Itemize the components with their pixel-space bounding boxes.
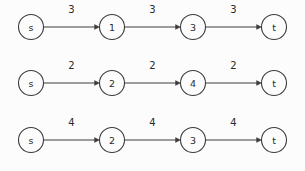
node-row3-0[interactable]: s	[19, 128, 44, 153]
node-row3-3[interactable]: t	[262, 128, 287, 153]
edge-row2-1[interactable]: 2	[125, 60, 181, 86]
node-row1-1[interactable]: 1	[100, 15, 125, 40]
edge-weight-label: 4	[68, 117, 74, 128]
node-label: s	[29, 78, 34, 89]
arrowhead-icon	[176, 138, 181, 143]
arrowhead-icon	[95, 81, 100, 86]
node-label: t	[272, 22, 276, 33]
edge-row3-2[interactable]: 4	[206, 117, 262, 143]
graph-row-3: 4 4 4 s 2 3	[19, 117, 287, 153]
node-row3-1[interactable]: 2	[100, 128, 125, 153]
arrowhead-icon	[257, 25, 262, 30]
edge-row3-0[interactable]: 4	[44, 117, 100, 143]
arrowhead-icon	[257, 138, 262, 143]
arrowhead-icon	[176, 81, 181, 86]
node-row1-2[interactable]: 3	[181, 15, 206, 40]
graph-row-1: 3 3 3 s 1 3	[19, 4, 287, 40]
node-row1-0[interactable]: s	[19, 15, 44, 40]
arrowhead-icon	[95, 138, 100, 143]
arrowhead-icon	[95, 25, 100, 30]
node-row2-3[interactable]: t	[262, 71, 287, 96]
graph-svg: 3 3 3 s 1 3	[0, 0, 305, 171]
arrowhead-icon	[176, 25, 181, 30]
edge-weight-label: 3	[149, 4, 155, 15]
edge-weight-label: 3	[68, 4, 74, 15]
arrowhead-icon	[257, 81, 262, 86]
node-row3-2[interactable]: 3	[181, 128, 206, 153]
node-label: 2	[109, 78, 115, 89]
edge-weight-label: 4	[230, 117, 236, 128]
node-row2-2[interactable]: 4	[181, 71, 206, 96]
node-label: 3	[190, 135, 196, 146]
graph-diagram-canvas: 3 3 3 s 1 3	[0, 0, 305, 171]
edge-weight-label: 2	[230, 60, 236, 71]
edge-row1-0[interactable]: 3	[44, 4, 100, 30]
node-label: 1	[109, 22, 115, 33]
node-label: t	[272, 135, 276, 146]
graph-row-2: 2 2 2 s 2 4	[19, 60, 287, 96]
node-label: s	[29, 135, 34, 146]
node-label: 3	[190, 22, 196, 33]
node-row2-0[interactable]: s	[19, 71, 44, 96]
node-row1-3[interactable]: t	[262, 15, 287, 40]
node-label: 4	[190, 78, 196, 89]
edge-weight-label: 2	[68, 60, 74, 71]
edge-weight-label: 3	[230, 4, 236, 15]
node-label: s	[29, 22, 34, 33]
edge-row1-1[interactable]: 3	[125, 4, 181, 30]
edge-row2-0[interactable]: 2	[44, 60, 100, 86]
edge-weight-label: 2	[149, 60, 155, 71]
node-row2-1[interactable]: 2	[100, 71, 125, 96]
edge-weight-label: 4	[149, 117, 155, 128]
edge-row3-1[interactable]: 4	[125, 117, 181, 143]
edge-row1-2[interactable]: 3	[206, 4, 262, 30]
node-label: 2	[109, 135, 115, 146]
node-label: t	[272, 78, 276, 89]
edge-row2-2[interactable]: 2	[206, 60, 262, 86]
